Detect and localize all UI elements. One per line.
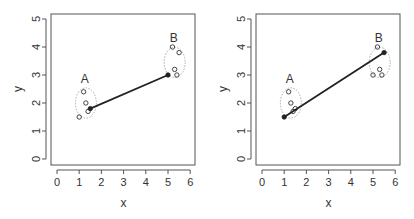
y-tick-label: 3 xyxy=(235,72,247,78)
y-tick-label: 3 xyxy=(30,72,42,78)
x-tick-label: 0 xyxy=(54,176,60,188)
link-endpoint xyxy=(88,106,92,110)
data-point xyxy=(289,101,293,105)
link-endpoint xyxy=(166,73,170,77)
y-tick-label: 1 xyxy=(235,128,247,134)
cluster-b: B xyxy=(164,31,185,77)
figure: 0123456x012345yAB0123456x012345yAB xyxy=(0,0,414,219)
data-point xyxy=(84,101,88,105)
y-axis: 012345y xyxy=(216,16,251,162)
data-point xyxy=(170,45,174,49)
x-tick-label: 0 xyxy=(259,176,265,188)
x-tick-label: 2 xyxy=(303,176,309,188)
y-tick-label: 1 xyxy=(30,128,42,134)
data-point xyxy=(380,73,384,77)
data-point xyxy=(175,73,179,77)
y-tick-label: 2 xyxy=(235,100,247,106)
x-axis-label: x xyxy=(326,196,332,210)
data-point xyxy=(286,90,290,94)
cluster-label: B xyxy=(375,31,383,45)
x-tick-label: 1 xyxy=(281,176,287,188)
x-tick-label: 4 xyxy=(143,176,149,188)
cluster-label: A xyxy=(81,72,89,86)
y-tick-label: 5 xyxy=(235,16,247,22)
x-tick-label: 6 xyxy=(392,176,398,188)
x-tick-label: 3 xyxy=(121,176,127,188)
linkage-line xyxy=(90,75,168,109)
data-point xyxy=(377,67,381,71)
y-tick-label: 2 xyxy=(30,100,42,106)
link-endpoint xyxy=(382,50,386,54)
x-tick-label: 5 xyxy=(370,176,376,188)
link-endpoint xyxy=(282,115,286,119)
x-axis: 0123456x xyxy=(54,170,193,210)
y-axis-label: y xyxy=(216,86,230,92)
x-axis: 0123456x xyxy=(259,170,398,210)
y-tick-label: 4 xyxy=(235,44,247,50)
x-tick-label: 5 xyxy=(165,176,171,188)
y-tick-label: 5 xyxy=(30,16,42,22)
y-axis-label: y xyxy=(11,86,25,92)
data-point xyxy=(375,45,379,49)
chart-panel-2: 0123456x012345yAB xyxy=(216,14,400,210)
chart-panel-1: 0123456x012345yAB xyxy=(11,14,195,210)
x-tick-label: 1 xyxy=(76,176,82,188)
linkage-line xyxy=(284,53,384,117)
x-tick-label: 2 xyxy=(98,176,104,188)
cluster-label: B xyxy=(170,31,178,45)
y-tick-label: 0 xyxy=(30,156,42,162)
x-tick-label: 3 xyxy=(326,176,332,188)
data-point xyxy=(81,90,85,94)
x-tick-label: 6 xyxy=(187,176,193,188)
cluster-label: A xyxy=(286,72,294,86)
data-point xyxy=(172,67,176,71)
cluster-a: A xyxy=(75,72,96,119)
y-tick-label: 0 xyxy=(235,156,247,162)
y-tick-label: 4 xyxy=(30,44,42,50)
x-axis-label: x xyxy=(121,196,127,210)
data-point xyxy=(77,115,81,119)
data-point xyxy=(177,50,181,54)
figure-svg: 0123456x012345yAB0123456x012345yAB xyxy=(0,0,414,219)
y-axis: 012345y xyxy=(11,16,46,162)
x-tick-label: 4 xyxy=(348,176,354,188)
